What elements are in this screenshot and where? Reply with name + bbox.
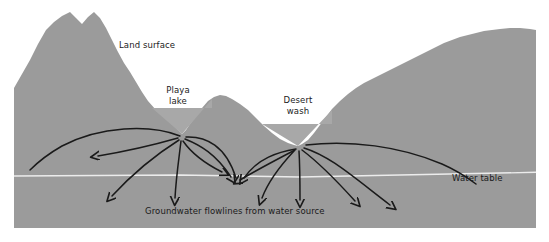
groundwater-cross-section-figure: Land surface Playa lake Desert wash Wate… [0, 0, 549, 242]
figure-caption: Groundwater flowlines from water source [145, 206, 325, 217]
label-playa-lake: Playa lake [152, 85, 204, 107]
label-water-table: Water table [452, 173, 502, 184]
label-desert-wash: Desert wash [270, 95, 326, 117]
label-desert-wash-line1: Desert [284, 95, 313, 105]
label-playa-lake-line2: lake [169, 96, 187, 106]
ground-body [14, 12, 536, 228]
land-surface-fill [14, 12, 536, 228]
label-playa-lake-line1: Playa [166, 85, 189, 95]
label-desert-wash-line2: wash [287, 106, 309, 116]
label-land-surface: Land surface [119, 40, 175, 51]
